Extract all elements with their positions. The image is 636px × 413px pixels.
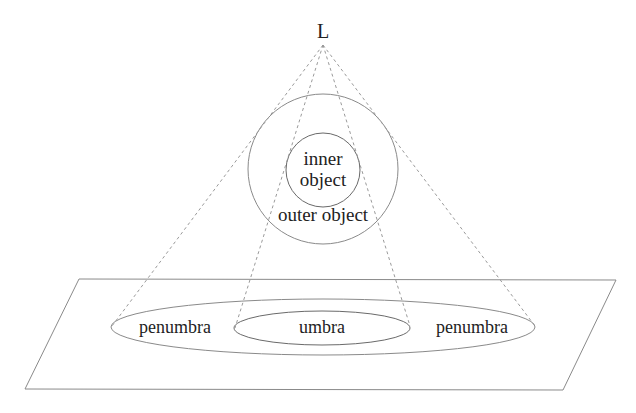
light-source-label: L	[317, 20, 329, 42]
outer-object-label: outer object	[278, 204, 369, 225]
inner-object-label-line2: object	[300, 169, 347, 190]
penumbra-left-label: penumbra	[139, 317, 211, 337]
outer-right-ray	[323, 45, 535, 326]
umbra-label: umbra	[299, 317, 345, 337]
outer-left-ray	[112, 45, 323, 326]
inner-object-label-line1: inner	[303, 148, 343, 169]
penumbra-right-label: penumbra	[436, 317, 508, 337]
shadow-diagram: L inner object outer object penumbra umb…	[0, 0, 636, 413]
